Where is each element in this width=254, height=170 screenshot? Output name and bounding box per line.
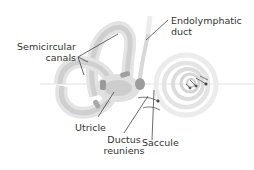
label-endolymphatic-duct: Endolymphatic duct: [171, 15, 242, 37]
label-utricle-text: Utricle: [75, 122, 106, 133]
label-ductus-reuniens: Ductus reuniens: [100, 134, 148, 156]
label-utricle: Utricle: [75, 122, 106, 133]
label-semicircular-line1: Semicircular: [4, 41, 76, 52]
label-ductus-line2: reuniens: [100, 145, 148, 156]
label-semicircular-canals: Semicircular canals: [4, 41, 76, 63]
label-semicircular-line2: canals: [4, 52, 76, 63]
label-ductus-line1: Ductus: [100, 134, 148, 145]
label-endolymphatic-line1: Endolymphatic: [171, 15, 242, 26]
flow-arrows: [138, 97, 160, 110]
label-endolymphatic-line2: duct: [171, 26, 242, 37]
endolymphatic-duct-structure: [140, 34, 148, 78]
label-saccule-text: Saccule: [142, 137, 179, 148]
label-saccule: Saccule: [142, 137, 179, 148]
